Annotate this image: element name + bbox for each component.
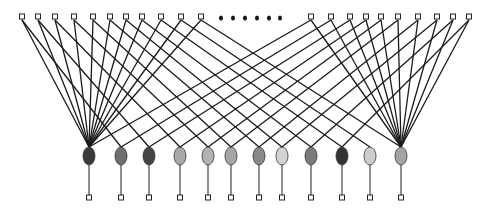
output-node-square bbox=[309, 195, 314, 200]
edge-line bbox=[311, 20, 453, 147]
input-node-square bbox=[379, 14, 384, 19]
edge-line bbox=[126, 20, 282, 147]
output-node-square bbox=[257, 195, 262, 200]
input-node-square bbox=[435, 14, 440, 19]
hidden-node-oval bbox=[83, 147, 95, 165]
input-node-square bbox=[124, 14, 129, 19]
hidden-node-oval bbox=[174, 147, 186, 165]
output-node-square bbox=[368, 195, 373, 200]
ellipsis-dot bbox=[255, 16, 259, 21]
input-node-square bbox=[348, 14, 353, 19]
output-node-square bbox=[147, 195, 152, 200]
hidden-node-oval bbox=[305, 147, 317, 165]
input-node-square bbox=[416, 14, 421, 19]
edge-line bbox=[89, 20, 142, 147]
output-node-square bbox=[119, 195, 124, 200]
connection-edges bbox=[22, 20, 469, 147]
ellipsis-dot bbox=[231, 16, 235, 21]
input-node-square bbox=[364, 14, 369, 19]
output-nodes bbox=[87, 195, 404, 200]
hidden-node-oval bbox=[143, 147, 155, 165]
ellipsis-dot bbox=[267, 16, 271, 21]
edge-line bbox=[89, 20, 181, 147]
output-node-square bbox=[206, 195, 211, 200]
output-node-square bbox=[399, 195, 404, 200]
edge-line bbox=[401, 20, 453, 147]
input-node-square bbox=[179, 14, 184, 19]
output-node-square bbox=[229, 195, 234, 200]
input-node-square bbox=[20, 14, 25, 19]
input-node-square bbox=[140, 14, 145, 19]
input-node-square bbox=[396, 14, 401, 19]
input-node-square bbox=[36, 14, 41, 19]
hidden-node-oval bbox=[395, 147, 407, 165]
hidden-node-oval bbox=[225, 147, 237, 165]
ellipsis-dot bbox=[219, 16, 223, 21]
ellipsis-dot bbox=[243, 16, 247, 21]
ellipsis-dots bbox=[219, 16, 282, 21]
edge-line bbox=[121, 20, 331, 147]
input-node-square bbox=[53, 14, 58, 19]
input-node-square bbox=[329, 14, 334, 19]
hidden-node-oval bbox=[336, 147, 348, 165]
output-node-square bbox=[178, 195, 183, 200]
edge-line bbox=[89, 20, 311, 147]
output-stems bbox=[89, 165, 401, 195]
hidden-nodes bbox=[83, 147, 407, 165]
edge-line bbox=[149, 20, 350, 147]
input-node-square bbox=[451, 14, 456, 19]
input-node-square bbox=[91, 14, 96, 19]
hidden-node-oval bbox=[276, 147, 288, 165]
hidden-node-oval bbox=[364, 147, 376, 165]
ellipsis-dot bbox=[278, 16, 282, 21]
input-node-square bbox=[467, 14, 472, 19]
hidden-node-oval bbox=[253, 147, 265, 165]
output-node-square bbox=[87, 195, 92, 200]
bipartite-network-diagram bbox=[0, 0, 491, 211]
input-node-square bbox=[159, 14, 164, 19]
output-node-square bbox=[280, 195, 285, 200]
edge-line bbox=[208, 20, 381, 147]
input-node-square bbox=[309, 14, 314, 19]
input-node-square bbox=[199, 14, 204, 19]
edge-line bbox=[282, 20, 437, 147]
hidden-node-oval bbox=[202, 147, 214, 165]
edge-line bbox=[342, 20, 469, 147]
input-node-square bbox=[72, 14, 77, 19]
output-node-square bbox=[340, 195, 345, 200]
edge-line bbox=[401, 20, 469, 147]
input-node-square bbox=[108, 14, 113, 19]
edge-line bbox=[55, 20, 89, 147]
hidden-node-oval bbox=[115, 147, 127, 165]
